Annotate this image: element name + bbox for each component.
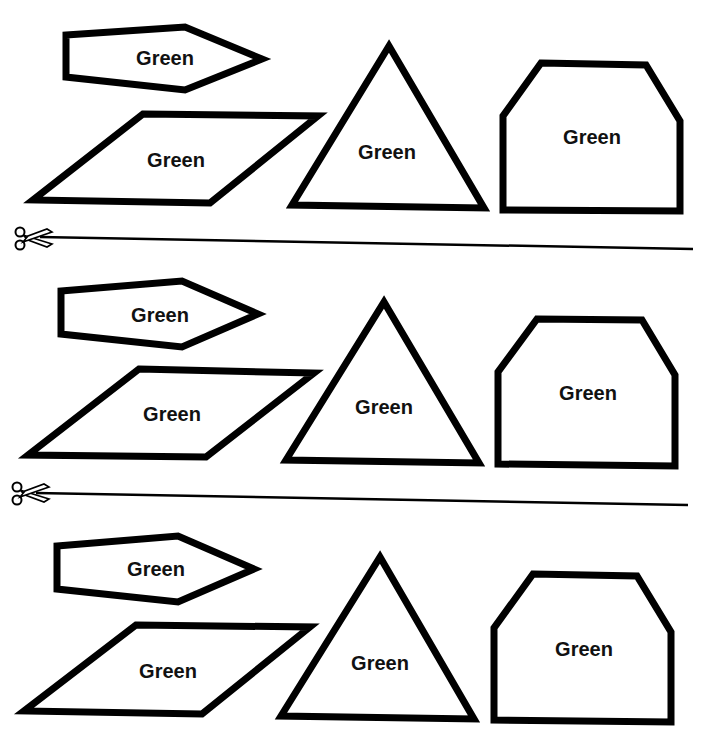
house-shape: Green [503,63,680,211]
parallelogram-label: Green [139,660,197,682]
cut-line-1 [16,228,694,250]
triangle-shape: Green [281,557,474,719]
pentagon-shape: Green [57,536,254,602]
shape-row-3: Green Green Green Green [24,536,671,722]
house-label: Green [563,126,621,148]
house-label: Green [555,638,613,660]
triangle-shape: Green [292,46,484,208]
cut-line-2 [13,483,689,506]
worksheet: Green Green Green Green Green [0,0,701,737]
triangle-shape: Green [286,302,479,463]
parallelogram-label: Green [147,149,205,171]
pentagon-shape: Green [66,27,262,90]
pentagon-label: Green [127,558,185,580]
pentagon-label: Green [136,47,194,69]
triangle-label: Green [358,141,416,163]
pentagon-label: Green [131,304,189,326]
parallelogram-shape: Green [28,369,314,457]
triangle-label: Green [351,652,409,674]
shape-row-2: Green Green Green Green [28,281,675,466]
triangle-label: Green [355,396,413,418]
parallelogram-label: Green [143,403,201,425]
pentagon-shape: Green [61,281,258,347]
scissors-icon [16,228,53,250]
house-label: Green [559,382,617,404]
shape-row-1: Green Green Green Green [33,27,680,211]
parallelogram-shape: Green [33,114,318,203]
parallelogram-shape: Green [24,625,310,714]
house-shape: Green [494,574,671,722]
house-shape: Green [498,319,675,466]
